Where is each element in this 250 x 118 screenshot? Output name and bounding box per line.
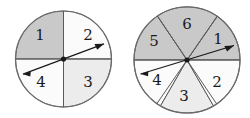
right-sector-label-5: 5 [149,32,159,50]
right-sector-label-1: 1 [213,30,223,48]
left-spinner-graphic: 1 2 3 4 [0,0,125,118]
left-sector-label-3: 3 [83,73,93,91]
two-spinners-figure: 1 2 3 4 [0,0,250,118]
right-spinner-hub [184,57,189,62]
left-spinner-hub [61,56,66,61]
left-sector-label-4: 4 [36,73,46,91]
right-sector-label-2: 2 [212,73,222,91]
left-sector-label-2: 2 [83,26,93,44]
right-sector-label-4: 4 [152,71,162,89]
right-spinner-graphic: 1 2 3 4 5 6 [125,0,250,118]
right-spinner: 1 2 3 4 5 6 [125,0,250,118]
left-sector-label-1: 1 [35,26,45,44]
right-sector-label-3: 3 [179,87,189,105]
right-sector-label-6: 6 [182,15,192,33]
left-spinner: 1 2 3 4 [0,0,125,118]
